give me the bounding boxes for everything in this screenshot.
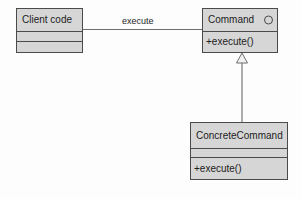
interface-circle-icon: [264, 16, 273, 25]
class-box-client-code[interactable]: Client code: [16, 8, 83, 53]
attributes-compartment-client-code: [17, 31, 82, 41]
class-name-label-command: Command: [203, 15, 254, 25]
class-name-label-client-code: Client code: [17, 15, 72, 25]
class-name-compartment-command: Command: [203, 9, 277, 31]
operations-compartment-command: +execute(): [203, 31, 277, 52]
association-label-execute: execute: [122, 17, 154, 26]
class-name-label-concrete-command: ConcreteCommand: [191, 131, 283, 141]
class-name-compartment-client-code: Client code: [17, 9, 82, 31]
class-box-command[interactable]: Command +execute(): [202, 8, 278, 53]
operations-compartment-concrete-command: +execute(): [191, 157, 287, 179]
operations-compartment-client-code: [17, 41, 82, 52]
attributes-compartment-concrete-command: [191, 148, 287, 157]
uml-class-diagram: execute Client code Command +execute() C…: [0, 0, 301, 199]
operations-label-command: +execute(): [203, 37, 254, 47]
operations-label-concrete-command: +execute(): [191, 164, 242, 174]
class-box-concrete-command[interactable]: ConcreteCommand +execute(): [190, 122, 288, 180]
generalization-arrowhead: [237, 53, 248, 63]
class-name-compartment-concrete-command: ConcreteCommand: [191, 123, 287, 148]
